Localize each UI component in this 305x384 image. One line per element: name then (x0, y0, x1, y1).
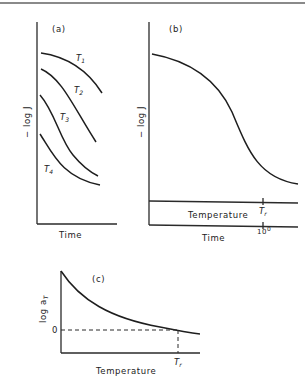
panel-a-label: (a) (52, 24, 66, 34)
panel-c-tr-label: Tr (174, 357, 182, 368)
panel-b-y-label: − log J (136, 106, 146, 138)
curve-t1 (41, 53, 102, 93)
panel-b-temperature-axis (149, 201, 298, 203)
panel-b-time-axis (149, 225, 298, 227)
curve-t4 (40, 134, 100, 185)
panel-b-tr-label: Tr (259, 206, 267, 217)
curve-t1-label: T1 (76, 53, 85, 64)
panel-c-label: (c) (92, 274, 105, 284)
curve-t2-label: T2 (74, 85, 83, 96)
panel-a: (a) Time − log J T1 T2 T3 T4 (22, 22, 117, 240)
panel-b: (b) − log J Tr Temperature 100 Time (136, 22, 298, 243)
master-curve (152, 54, 298, 184)
panel-c: (c) 0 Tr Temperature log aT (38, 271, 200, 376)
panel-c-zero-label: 0 (52, 325, 58, 335)
panel-b-x-label: Time (201, 233, 225, 243)
shift-factor-curve (61, 271, 200, 334)
curve-t4-label: T4 (44, 164, 53, 175)
figure-canvas: (a) Time − log J T1 T2 T3 T4 (b) − log J… (0, 0, 305, 384)
panel-a-y-label: − log J (22, 106, 32, 138)
panel-c-x-label: Temperature (95, 366, 156, 376)
curve-t2 (41, 69, 96, 142)
panel-c-y-label: log aT (38, 294, 49, 323)
curve-t3-label: T3 (60, 112, 69, 123)
panel-a-x-label: Time (58, 230, 82, 240)
panel-b-temperature-label: Temperature (187, 210, 248, 220)
panel-b-label: (b) (169, 24, 183, 34)
